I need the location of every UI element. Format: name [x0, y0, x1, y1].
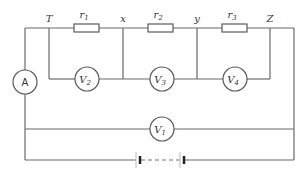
resistor-r1: r1: [74, 9, 99, 32]
voltmeter-v1: V1: [150, 117, 174, 141]
svg-text:r1: r1: [79, 9, 88, 22]
voltmeter-v4: V4: [223, 67, 247, 91]
battery-icon: [136, 152, 184, 168]
node-x-label: x: [120, 13, 126, 24]
svg-text:r2: r2: [153, 9, 163, 22]
resistor-r3: r3: [222, 9, 247, 32]
circuit-diagram: A r1 r2 r3 T x y Z V2 V3: [0, 0, 306, 175]
resistor-r2: r2: [148, 9, 173, 32]
svg-text:r3: r3: [227, 9, 237, 22]
node-Z-label: Z: [266, 13, 275, 24]
ammeter: A: [13, 70, 37, 94]
node-T-label: T: [46, 13, 54, 24]
voltmeter-v2: V2: [75, 67, 99, 91]
ammeter-label: A: [22, 77, 29, 88]
node-y-label: y: [193, 13, 200, 24]
voltmeter-v3: V3: [150, 67, 174, 91]
